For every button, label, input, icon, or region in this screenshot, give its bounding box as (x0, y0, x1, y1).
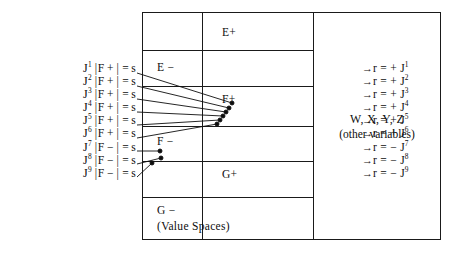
equation-sign: − (107, 141, 114, 153)
result-sign: + (390, 75, 397, 87)
equals-sign: = (380, 141, 387, 153)
result-sign: + (390, 88, 397, 100)
equals-sign: = (380, 167, 387, 179)
equation-space: F (98, 167, 105, 179)
arrow-right-icon: → (362, 62, 373, 74)
cell-e-plus: E+ (222, 26, 236, 38)
result-superscript: 9 (405, 165, 409, 174)
equals-sign: = (380, 154, 387, 166)
equals-sign: = (122, 154, 129, 166)
equation-row: J5|F+|=s (8, 114, 136, 127)
result-superscript: 6 (405, 126, 409, 135)
result-superscript: 2 (405, 73, 409, 82)
arrow-right-icon: → (362, 154, 373, 166)
equation-row: J1|F+|=s (8, 62, 136, 75)
equation-sign: − (107, 154, 114, 166)
equation-space: F (98, 114, 105, 126)
cell-g-plus: G+ (222, 168, 237, 180)
result-sign: + (390, 101, 397, 113)
arrow-right-icon: → (362, 127, 373, 139)
equation-value: s (131, 167, 136, 179)
equation-value: s (131, 154, 136, 166)
result-superscript: 1 (405, 60, 409, 69)
equals-sign: = (122, 127, 129, 139)
equation-value: s (131, 114, 136, 126)
equation-superscript: 2 (88, 73, 92, 82)
equation-value: s (131, 88, 136, 100)
result-superscript: 7 (405, 139, 409, 148)
equation-row: J2|F+|=s (8, 75, 136, 88)
table-row-divider (143, 86, 313, 87)
bracket-close: | (116, 114, 120, 126)
equation-space: F (98, 88, 105, 100)
table-row-divider (143, 50, 313, 51)
right-result-list: →r=+J1 →r=+J2 →r=+J3 →r=+J4 →r=+J5 →r=+J… (362, 62, 454, 180)
equals-sign: = (122, 88, 129, 100)
bracket-close: | (116, 141, 120, 153)
cell-g-minus: G − (157, 204, 176, 216)
result-sign: − (390, 141, 397, 153)
result-sign: − (390, 167, 397, 179)
table-row-divider (143, 161, 313, 162)
left-equation-list: J1|F+|=s J2|F+|=s J3|F+|=s J4|F+|=s J5|F… (8, 62, 136, 180)
result-superscript: 5 (405, 113, 409, 122)
equals-sign: = (380, 88, 387, 100)
equals-sign: = (380, 75, 387, 87)
equation-row: J4|F+|=s (8, 101, 136, 114)
cell-e-minus: E − (157, 61, 174, 73)
result-sign: + (390, 127, 397, 139)
result-superscript: 3 (405, 86, 409, 95)
result-variable: r (373, 154, 377, 166)
equation-value: s (131, 127, 136, 139)
equation-space: F (98, 127, 105, 139)
arrow-right-icon: → (362, 101, 373, 113)
result-variable: r (373, 127, 377, 139)
table-row-divider (143, 197, 313, 198)
arrow-right-icon: → (362, 141, 373, 153)
result-variable: r (373, 114, 377, 126)
bracket-close: | (116, 62, 120, 74)
cell-f-minus: F − (157, 135, 174, 147)
equals-sign: = (122, 101, 129, 113)
equation-row: J9|F−|=s (8, 167, 136, 180)
equation-sign: + (107, 114, 114, 126)
result-variable: r (373, 141, 377, 153)
result-variable: r (373, 75, 377, 87)
result-superscript: 8 (405, 152, 409, 161)
equation-value: s (131, 62, 136, 74)
equation-sign: + (107, 88, 114, 100)
diagram-canvas: J1|F+|=s J2|F+|=s J3|F+|=s J4|F+|=s J5|F… (0, 0, 456, 258)
result-sign: + (390, 114, 397, 126)
equation-superscript: 8 (88, 152, 92, 161)
equation-sign: + (107, 62, 114, 74)
bracket-close: | (116, 101, 120, 113)
equation-sign: − (107, 167, 114, 179)
equation-sign: + (107, 127, 114, 139)
equals-sign: = (380, 62, 387, 74)
equals-sign: = (122, 62, 129, 74)
table-row-divider (143, 126, 313, 127)
result-variable: r (373, 62, 377, 74)
arrow-right-icon: → (362, 114, 373, 126)
result-row: →r=−J9 (362, 167, 454, 180)
arrow-right-icon: → (362, 75, 373, 87)
equation-space: F (98, 75, 105, 87)
equation-superscript: 4 (88, 99, 92, 108)
equals-sign: = (122, 114, 129, 126)
equation-superscript: 5 (88, 113, 92, 122)
equation-value: s (131, 101, 136, 113)
arrow-right-icon: → (362, 167, 373, 179)
equals-sign: = (380, 101, 387, 113)
equals-sign: = (122, 167, 129, 179)
bracket-close: | (116, 167, 120, 179)
equation-space: F (98, 62, 105, 74)
equals-sign: = (380, 114, 387, 126)
equation-sign: + (107, 101, 114, 113)
result-variable: r (373, 101, 377, 113)
value-spaces-table: E+ E − F+ F − G+ G − (Value Spaces) (142, 12, 314, 240)
result-sign: − (390, 154, 397, 166)
equation-superscript: 7 (88, 139, 92, 148)
arrow-right-icon: → (362, 88, 373, 100)
equation-row: J8|F−|=s (8, 154, 136, 167)
equation-sign: + (107, 75, 114, 87)
